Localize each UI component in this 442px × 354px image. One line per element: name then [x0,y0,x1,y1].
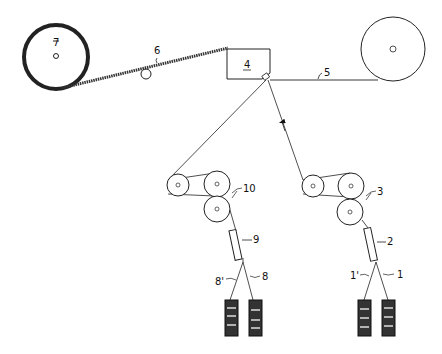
bobbin-8 [249,300,262,336]
bobbin-8-prime [225,300,238,336]
label-4: 4 [244,59,250,70]
label-5: 5 [324,67,330,78]
supply-package-right [361,17,425,81]
yarn-5: 5 [270,67,378,80]
label-1: 1 [397,269,403,280]
supply-yarns-1: 1' 1 [350,262,403,336]
yarn-path-right [268,80,303,180]
feed-rolls-3: 3 [302,173,383,225]
label-3: 3 [377,186,383,197]
label-8: 8 [262,271,268,282]
label-7: 7 [53,37,59,48]
bobbin-1 [382,300,395,336]
label-2: 2 [387,236,393,247]
nozzle-4: 4 [227,49,270,80]
label-1-prime: 1' [350,270,359,281]
label-6: 6 [154,45,160,56]
heater-2: 2 [362,220,393,261]
diagram-canvas: 7 6 4 5 10 [0,0,442,354]
label-10: 10 [243,183,256,194]
takeup-package-7: 7 [24,25,88,89]
feed-rolls-10: 10 [167,171,256,222]
yarn-path-left [168,80,266,180]
heater-9: 9 [229,210,259,262]
label-8-prime: 8' [215,276,224,287]
supply-yarns-8: 8' 8 [215,262,268,336]
label-9: 9 [253,234,259,245]
